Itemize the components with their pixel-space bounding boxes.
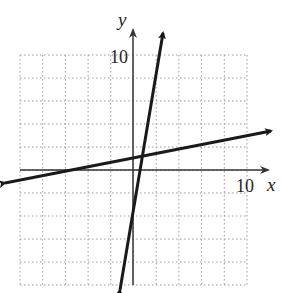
x-tick-label: 10	[236, 176, 254, 196]
coordinate-graph: y x 10 10	[0, 0, 282, 293]
y-tick-label: 10	[110, 47, 128, 67]
y-axis-label: y	[116, 9, 127, 30]
x-axis-label: x	[266, 174, 276, 195]
